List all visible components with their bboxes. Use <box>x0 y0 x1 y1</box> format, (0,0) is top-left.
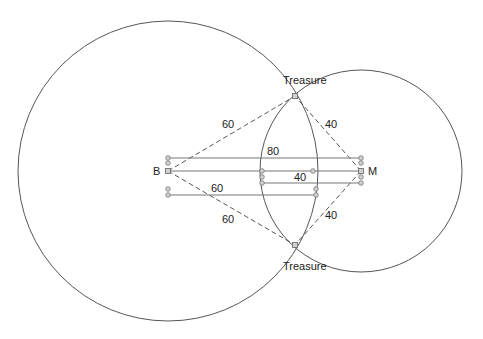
point-B-marker[interactable] <box>166 169 171 174</box>
handle-ruler-40-right[interactable] <box>359 175 364 180</box>
handle-ruler-BM-mid[interactable] <box>311 169 316 174</box>
handle-ruler-40-left[interactable] <box>260 175 265 180</box>
handle-ruler-80-right[interactable] <box>359 156 364 161</box>
label-treasure-bottom: Treasure <box>283 260 327 272</box>
handle-ruler-80-right-2[interactable] <box>359 161 364 166</box>
handle-ruler-40-right-2[interactable] <box>359 181 364 186</box>
handle-ruler-80-left-2[interactable] <box>166 161 171 166</box>
label-treasure-top: Treasure <box>283 74 327 86</box>
handle-ruler-60-left[interactable] <box>166 187 171 192</box>
dashed-B-to-bottom-treasure <box>168 171 295 245</box>
handle-ruler-60-right[interactable] <box>314 187 319 192</box>
label-ruler-40: 40 <box>294 171 306 183</box>
handle-ruler-BM-mid-left[interactable] <box>260 169 265 174</box>
label-B: B <box>153 165 160 177</box>
treasure-diagram: B M Treasure Treasure 60 40 60 40 80 40 … <box>0 0 483 339</box>
label-dist-B-bottom: 60 <box>222 213 234 225</box>
label-dist-M-bottom: 40 <box>325 209 337 221</box>
label-M: M <box>368 165 377 177</box>
dashed-M-to-top-treasure <box>295 96 361 171</box>
dashed-B-to-top-treasure <box>168 96 295 171</box>
label-dist-M-top: 40 <box>325 118 337 130</box>
treasure-bottom-marker[interactable] <box>293 243 298 248</box>
point-M-marker[interactable] <box>359 169 364 174</box>
treasure-top-marker[interactable] <box>293 94 298 99</box>
label-dist-B-top: 60 <box>222 118 234 130</box>
label-ruler-60: 60 <box>211 182 223 194</box>
handle-ruler-60-right-2[interactable] <box>314 193 319 198</box>
handle-ruler-80-left[interactable] <box>166 156 171 161</box>
label-ruler-80: 80 <box>267 145 279 157</box>
handle-ruler-60-left-2[interactable] <box>166 193 171 198</box>
handle-ruler-40-left-2[interactable] <box>260 181 265 186</box>
